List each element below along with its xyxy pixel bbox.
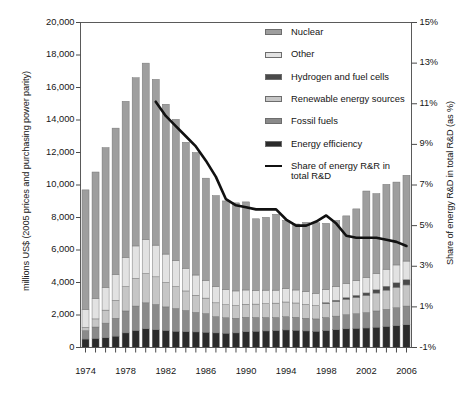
bar-group bbox=[403, 175, 410, 347]
bar-group bbox=[373, 194, 380, 348]
bar-group bbox=[383, 184, 390, 347]
bar-group bbox=[393, 182, 400, 347]
bar-group bbox=[122, 101, 129, 347]
legend-color-swatch bbox=[265, 141, 282, 147]
bar-group bbox=[192, 153, 199, 348]
legend-item: Fossil fuels bbox=[265, 116, 338, 127]
legend-item: Other bbox=[265, 49, 314, 60]
legend-label: Fossil fuels bbox=[291, 116, 338, 127]
legend-color-swatch bbox=[265, 74, 282, 80]
bar-group bbox=[273, 214, 280, 347]
legend-color-swatch bbox=[265, 52, 282, 58]
bar-group bbox=[323, 223, 330, 347]
legend-item: Nuclear bbox=[265, 27, 323, 38]
legend-label: Nuclear bbox=[291, 27, 323, 38]
bar-group bbox=[202, 178, 209, 347]
bar-group bbox=[222, 201, 229, 348]
legend-color-swatch bbox=[265, 96, 282, 102]
bar-group bbox=[102, 148, 109, 348]
bar-group bbox=[333, 220, 340, 347]
bar-group bbox=[142, 63, 149, 347]
legend-label: Energy efficiency bbox=[291, 139, 362, 150]
bar-group bbox=[253, 219, 260, 348]
bar-group bbox=[152, 79, 159, 347]
bar-group bbox=[212, 196, 219, 348]
legend-item: Share of energy R&R intotal R&D bbox=[265, 161, 390, 182]
legend-line-swatch bbox=[265, 165, 282, 167]
bar-group bbox=[283, 220, 290, 347]
bar-group bbox=[182, 142, 189, 347]
bar-group bbox=[313, 223, 320, 348]
legend-label: Renewable energy sources bbox=[291, 94, 405, 105]
plot-area bbox=[0, 0, 475, 403]
bar-group bbox=[232, 203, 239, 348]
legend-item: Hydrogen and fuel cells bbox=[265, 72, 389, 83]
energy-rd-chart: millions US$ (2005 prices and purchasing… bbox=[0, 0, 475, 403]
bar-group bbox=[303, 222, 310, 347]
legend-item: Energy efficiency bbox=[265, 139, 362, 150]
legend-label: Share of energy R&R intotal R&D bbox=[291, 161, 390, 182]
bar-group bbox=[242, 202, 249, 348]
bar-group bbox=[353, 209, 360, 348]
legend-item: Renewable energy sources bbox=[265, 94, 405, 105]
bar-group bbox=[82, 190, 89, 348]
bar-group bbox=[363, 191, 370, 347]
legend-color-swatch bbox=[265, 29, 282, 35]
bar-group bbox=[162, 104, 169, 347]
legend-label: Hydrogen and fuel cells bbox=[291, 72, 389, 83]
legend-color-swatch bbox=[265, 118, 282, 124]
bar-group bbox=[92, 172, 99, 348]
bar-group bbox=[132, 78, 139, 348]
legend-label: Other bbox=[291, 49, 314, 60]
bar-group bbox=[112, 128, 119, 347]
bar-group bbox=[172, 119, 179, 347]
bar-group bbox=[293, 224, 300, 348]
bar-group bbox=[263, 217, 270, 347]
